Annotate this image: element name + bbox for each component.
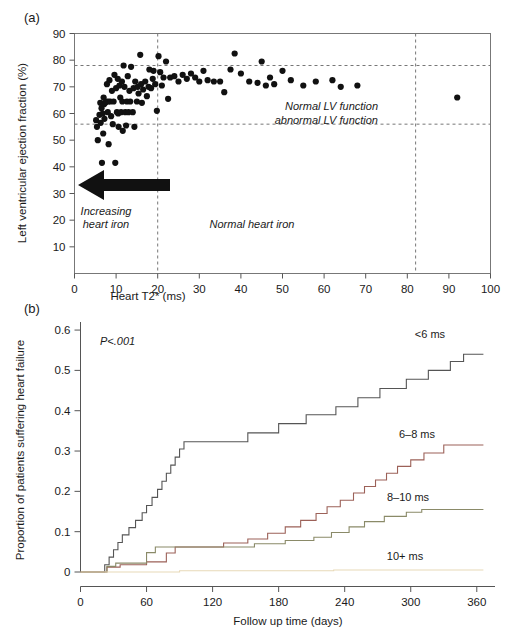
panel-b-y-tick-label: 0.1	[55, 526, 71, 538]
scatter-point	[131, 124, 137, 130]
panel-a-y-tick-label: 30	[53, 188, 66, 200]
scatter-point	[123, 122, 129, 128]
scatter-point	[338, 84, 344, 90]
panel-b-x-axis-title: Follow up time (days)	[233, 615, 342, 627]
panel-a-x-tick-label: 50	[276, 283, 289, 295]
panel-a-y-tick-label: 90	[53, 28, 66, 40]
panel-a-scatter-points	[93, 50, 460, 166]
scatter-point	[271, 81, 277, 87]
scatter-point	[106, 141, 112, 147]
scatter-point	[454, 94, 460, 100]
scatter-point	[144, 93, 150, 99]
scatter-point	[120, 128, 126, 134]
panel-a-x-tick-label: 70	[359, 283, 372, 295]
panel-b-x-tick-label: 180	[269, 596, 288, 608]
scatter-point	[119, 78, 125, 84]
scatter-point	[221, 89, 227, 95]
scatter-point	[106, 77, 112, 83]
normal-lv-function-label: Normal LV function	[285, 100, 378, 112]
scatter-point	[127, 98, 133, 104]
curve-label-2: 6–8 ms	[399, 428, 436, 440]
scatter-point	[137, 52, 143, 58]
scatter-point	[300, 82, 306, 88]
step-curve-3	[81, 510, 484, 573]
panel-a-x-tick-label: 10	[110, 283, 123, 295]
scatter-point	[121, 84, 127, 90]
panel-a-x-tick-label: 100	[481, 283, 500, 295]
panel-b-step-curves	[81, 354, 484, 572]
panel-b-x-tick-label: 120	[203, 596, 222, 608]
scatter-point	[313, 78, 319, 84]
scatter-point	[111, 98, 117, 104]
scatter-point	[140, 86, 146, 92]
scientific-figure: (a) Left ventricular ejection fraction (…	[0, 0, 512, 637]
scatter-point	[217, 78, 223, 84]
scatter-point	[110, 121, 116, 127]
scatter-point	[157, 69, 163, 75]
panel-a-y-tick-label: 20	[53, 214, 66, 226]
panel-a-y-tick-label: 60	[53, 108, 66, 120]
normal-heart-iron-label: Normal heart iron	[210, 218, 295, 230]
scatter-point	[154, 108, 160, 114]
panel-a: (a) Left ventricular ejection fraction (…	[16, 10, 500, 302]
curve-label-4: 10+ ms	[387, 550, 424, 562]
panel-b-y-tick-label: 0.2	[55, 485, 71, 497]
abnormal-lv-function-label: abnormal LV function	[275, 114, 378, 126]
scatter-point	[175, 78, 181, 84]
scatter-point	[254, 80, 260, 86]
scatter-point	[152, 81, 158, 87]
scatter-point	[259, 58, 265, 64]
scatter-point	[120, 62, 126, 68]
panel-b-y-tick-label: 0.3	[55, 445, 71, 457]
panel-a-x-tick-label: 40	[235, 283, 248, 295]
panel-a-y-tick-label: 40	[53, 161, 66, 173]
increasing-iron-label-line2: heart iron	[83, 218, 129, 230]
scatter-point	[99, 160, 105, 166]
panel-a-ticks: 0102030405060708090100102030405060708090	[53, 28, 500, 295]
scatter-point	[100, 130, 106, 136]
panel-b-ticks: 06012018024030036000.10.20.30.40.50.6	[55, 324, 487, 608]
panel-a-x-tick-label: 30	[193, 283, 206, 295]
step-curve-4	[81, 570, 484, 572]
scatter-point	[171, 73, 177, 79]
panel-a-x-tick-label: 60	[318, 283, 331, 295]
panel-b-y-tick-label: 0.4	[55, 405, 72, 417]
scatter-point	[238, 70, 244, 76]
panel-a-x-tick-label: 80	[401, 283, 414, 295]
scatter-point	[279, 68, 285, 74]
panel-b: (b) Proportion of patients suffering hea…	[14, 301, 495, 627]
curve-label-3: 8–10 ms	[387, 491, 430, 503]
panel-b-x-tick-label: 60	[140, 596, 153, 608]
panel-a-x-tick-label: 20	[151, 283, 164, 295]
scatter-point	[329, 77, 335, 83]
scatter-point	[184, 76, 190, 82]
panel-a-y-tick-label: 10	[53, 241, 66, 253]
scatter-point	[205, 77, 211, 83]
increasing-iron-arrow-icon	[78, 170, 170, 200]
panel-a-label: (a)	[24, 10, 40, 25]
curve-label-1: <6 ms	[415, 328, 446, 340]
scatter-point	[165, 96, 171, 102]
scatter-point	[211, 78, 217, 84]
scatter-point	[112, 160, 118, 166]
panel-a-y-axis-title: Left ventricular ejection fraction (%)	[16, 63, 28, 243]
scatter-point	[142, 78, 148, 84]
scatter-point	[95, 137, 101, 143]
panel-b-y-tick-label: 0.6	[55, 324, 71, 336]
scatter-point	[196, 78, 202, 84]
step-curve-1	[81, 354, 484, 572]
scatter-point	[101, 116, 107, 122]
panel-b-y-tick-label: 0	[64, 566, 70, 578]
increasing-iron-label-line1: Increasing	[81, 205, 133, 217]
panel-a-x-tick-label: 90	[443, 283, 456, 295]
panel-a-y-tick-label: 80	[53, 54, 66, 66]
scatter-point	[246, 78, 252, 84]
scatter-point	[232, 50, 238, 56]
scatter-point	[160, 74, 166, 80]
panel-a-y-tick-label: 70	[53, 81, 66, 93]
panel-b-y-tick-label: 0.5	[55, 364, 71, 376]
scatter-point	[267, 74, 273, 80]
scatter-point	[354, 82, 360, 88]
scatter-point	[108, 113, 114, 119]
scatter-point	[263, 82, 269, 88]
